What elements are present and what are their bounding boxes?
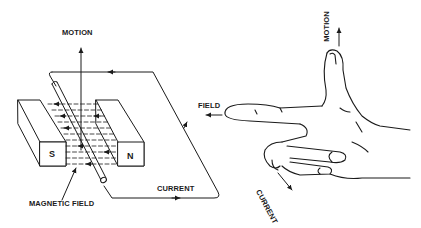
hand-illustration bbox=[225, 50, 410, 179]
label-field-right: FIELD bbox=[198, 101, 220, 110]
label-south-pole: S bbox=[49, 149, 55, 159]
current-direction-arrow bbox=[278, 173, 292, 190]
north-magnet bbox=[96, 100, 144, 166]
label-motion-right: MOTION bbox=[322, 11, 331, 42]
magnetic-field-leader bbox=[62, 168, 76, 200]
label-current-left: CURRENT bbox=[157, 184, 194, 193]
label-magnetic-field: MAGNETIC FIELD bbox=[29, 199, 94, 208]
label-motion-left: MOTION bbox=[62, 28, 93, 37]
generator-hand-rule-diagram: MOTION S N CURRENT MAGNETIC FIELD FIELD … bbox=[0, 0, 421, 228]
label-north-pole: N bbox=[127, 151, 134, 161]
